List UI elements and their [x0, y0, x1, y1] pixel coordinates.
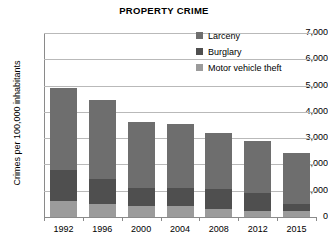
bar-stack[interactable]: [167, 33, 194, 217]
bar-segment-burglary[interactable]: [128, 188, 155, 206]
legend-swatch-motor-vehicle-theft-icon: [196, 64, 203, 71]
bar-segment-motor-vehicle-theft[interactable]: [89, 204, 116, 217]
x-tick-label: 2015: [277, 224, 316, 234]
legend-swatch-burglary-icon: [196, 48, 203, 55]
legend-item[interactable]: Larceny: [196, 28, 328, 43]
x-tick-mark: [238, 217, 239, 221]
bar-segment-larceny[interactable]: [50, 88, 77, 170]
x-tick-mark: [44, 217, 45, 221]
bar-segment-larceny[interactable]: [128, 122, 155, 188]
bar-segment-burglary[interactable]: [50, 170, 77, 201]
bar-stack[interactable]: [50, 33, 77, 217]
bar-segment-burglary[interactable]: [244, 193, 271, 211]
chart-legend: LarcenyBurglaryMotor vehicle theft: [196, 28, 328, 76]
x-tick-label: 2008: [199, 224, 238, 234]
bar-segment-motor-vehicle-theft[interactable]: [167, 206, 194, 217]
x-tick-label: 2012: [238, 224, 277, 234]
bar-segment-burglary[interactable]: [89, 179, 116, 204]
x-tick-label: 2004: [161, 224, 200, 234]
bar-stack[interactable]: [89, 33, 116, 217]
legend-item-label: Motor vehicle theft: [208, 63, 282, 73]
x-axis-line: [44, 217, 316, 218]
bar-segment-motor-vehicle-theft[interactable]: [128, 206, 155, 217]
x-tick-mark: [316, 217, 317, 221]
legend-item-label: Larceny: [208, 31, 240, 41]
x-tick-label: 1992: [44, 224, 83, 234]
x-tick-mark: [83, 217, 84, 221]
bar-segment-motor-vehicle-theft[interactable]: [244, 211, 271, 217]
x-tick-label: 2000: [122, 224, 161, 234]
y-axis-title: Crimes per 100,000 inhabitants: [12, 43, 22, 203]
bar-segment-larceny[interactable]: [167, 124, 194, 187]
chart-title: PROPERTY CRIME: [0, 5, 328, 16]
bar-segment-burglary[interactable]: [205, 189, 232, 208]
x-tick-label: 1996: [83, 224, 122, 234]
bar-stack[interactable]: [128, 33, 155, 217]
bar-segment-larceny[interactable]: [244, 141, 271, 193]
legend-item[interactable]: Motor vehicle theft: [196, 60, 328, 75]
x-tick-mark: [199, 217, 200, 221]
legend-item-label: Burglary: [208, 47, 242, 57]
bar-segment-burglary[interactable]: [167, 188, 194, 206]
x-tick-mark: [122, 217, 123, 221]
bar-segment-larceny[interactable]: [205, 133, 232, 190]
property-crime-chart: PROPERTY CRIME Crimes per 100,000 inhabi…: [0, 0, 328, 247]
y-axis: Crimes per 100,000 inhabitants: [0, 0, 41, 247]
bar-segment-burglary[interactable]: [283, 204, 310, 211]
bar-segment-motor-vehicle-theft[interactable]: [50, 201, 77, 217]
legend-item[interactable]: Burglary: [196, 44, 328, 59]
bar-segment-larceny[interactable]: [283, 153, 310, 205]
bar-segment-motor-vehicle-theft[interactable]: [283, 211, 310, 217]
legend-swatch-larceny-icon: [196, 32, 203, 39]
x-tick-mark: [277, 217, 278, 221]
bar-segment-motor-vehicle-theft[interactable]: [205, 209, 232, 217]
x-tick-mark: [161, 217, 162, 221]
bar-segment-larceny[interactable]: [89, 100, 116, 179]
